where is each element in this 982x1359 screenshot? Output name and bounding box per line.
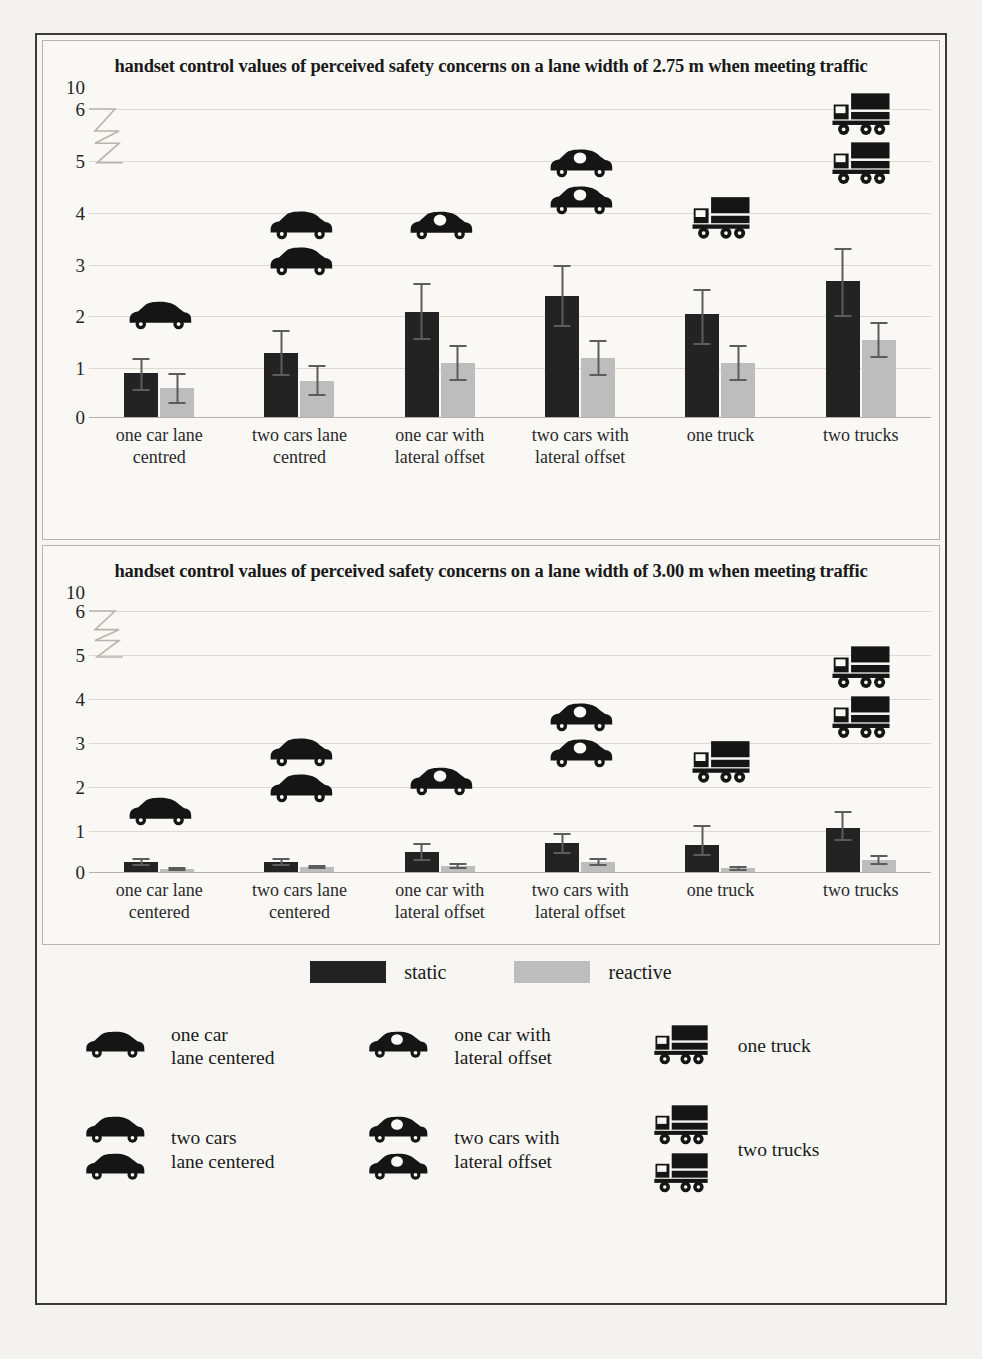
bar-group <box>229 592 369 872</box>
error-bar <box>554 833 571 855</box>
x-tick-label: one truck <box>650 425 790 469</box>
error-bar <box>169 373 186 404</box>
legend-label-static: static <box>404 961 446 984</box>
y-tick-label: 2 <box>76 307 86 326</box>
bar-reactive <box>300 87 334 417</box>
error-bar <box>694 289 711 345</box>
icon-legend-item-one-car-lane-centered: one carlane centered <box>71 1003 354 1089</box>
icon-legend-label: one truck <box>738 1034 811 1057</box>
y-tick-label: 2 <box>76 777 86 796</box>
bar-static <box>545 87 579 417</box>
car-offset-icon <box>354 1114 440 1185</box>
bar-group <box>89 87 229 417</box>
error-bar <box>834 248 851 317</box>
error-bar <box>554 265 571 327</box>
y-tick-label: 3 <box>76 255 86 274</box>
error-bar <box>273 858 290 867</box>
y-tick-label: 6 <box>76 100 86 119</box>
bar-reactive <box>862 592 896 872</box>
error-bar <box>694 825 711 855</box>
bar-group <box>510 592 650 872</box>
error-bar <box>133 358 150 391</box>
y-tick-label: 4 <box>76 203 86 222</box>
bar-reactive <box>441 87 475 417</box>
bar-reactive <box>581 87 615 417</box>
truck-icon <box>638 1103 724 1197</box>
bar-reactive <box>862 87 896 417</box>
error-bar <box>730 345 747 381</box>
error-bar <box>309 865 326 869</box>
bar-static <box>685 87 719 417</box>
bar-static <box>685 592 719 872</box>
gridline <box>89 872 931 873</box>
icon-legend-item-two-cars-with-lateral-offset: two cars withlateral offset <box>354 1103 637 1197</box>
y-tick-label: 1 <box>76 821 86 840</box>
y-tick-label: 3 <box>76 733 86 752</box>
y-tick-label: 5 <box>76 151 86 170</box>
chart-panel-300: handset control values of perceived safe… <box>42 545 940 945</box>
x-tick-label: one car withlateral offset <box>370 880 510 924</box>
x-tick-label: one car lanecentred <box>89 425 229 469</box>
x-tick-label: one car lanecentered <box>89 880 229 924</box>
bar-group <box>650 592 790 872</box>
plot-area-275: 106543210 <box>43 87 939 417</box>
bar-static <box>264 87 298 417</box>
y-tick-label: 6 <box>76 601 86 620</box>
icon-legend-label: two cars withlateral offset <box>454 1126 559 1173</box>
x-tick-label: two trucks <box>791 880 931 924</box>
bar-group <box>650 87 790 417</box>
y-axis-labels-275: 106543210 <box>43 87 89 417</box>
legend-swatch-static <box>310 961 386 983</box>
bar-reactive <box>160 592 194 872</box>
car-offset-icon <box>354 1029 440 1063</box>
icon-legend-label: two carslane centered <box>171 1126 274 1173</box>
bar-group <box>229 87 369 417</box>
y-tick-label: 10 <box>66 582 85 601</box>
error-bar <box>169 867 186 870</box>
x-tick-label: two cars lanecentered <box>229 880 369 924</box>
icon-legend-item-one-car-with-lateral-offset: one car withlateral offset <box>354 1003 637 1089</box>
icon-legend-item-two-trucks: two trucks <box>638 1103 921 1197</box>
bar-series-300 <box>89 592 931 872</box>
icon-legend: one carlane centeredone car withlateral … <box>37 989 945 1197</box>
x-axis-labels-275: one car lanecentredtwo cars lanecentredo… <box>89 425 931 469</box>
icon-legend-label: one car withlateral offset <box>454 1023 552 1070</box>
error-bar <box>870 322 887 358</box>
bar-reactive <box>721 592 755 872</box>
error-bar <box>309 365 326 396</box>
x-tick-label: two cars withlateral offset <box>510 880 650 924</box>
x-tick-label: one car withlateral offset <box>370 425 510 469</box>
bar-series-275 <box>89 87 931 417</box>
figure-frame: handset control values of perceived safe… <box>35 33 947 1305</box>
x-axis-labels-300: one car lanecenteredtwo cars lanecentere… <box>89 880 931 924</box>
car-icon <box>71 1114 157 1185</box>
bar-group <box>370 87 510 417</box>
bar-group <box>510 87 650 417</box>
series-legend: static reactive <box>37 955 945 989</box>
x-tick-label: one truck <box>650 880 790 924</box>
plot-area-300: 106543210 <box>43 592 939 872</box>
bar-static <box>264 592 298 872</box>
gridline <box>89 417 931 418</box>
y-tick-label: 0 <box>76 862 86 881</box>
bar-reactive <box>721 87 755 417</box>
y-tick-label: 1 <box>76 359 86 378</box>
x-tick-label: two cars lanecentred <box>229 425 369 469</box>
bar-group <box>370 592 510 872</box>
bar-static <box>124 87 158 417</box>
bar-static <box>405 87 439 417</box>
chart-title-300: handset control values of perceived safe… <box>43 546 939 584</box>
bar-reactive <box>300 592 334 872</box>
error-bar <box>133 858 150 866</box>
error-bar <box>590 858 607 867</box>
icon-legend-item-one-truck: one truck <box>638 1003 921 1089</box>
bar-static <box>826 87 860 417</box>
error-bar <box>449 863 466 868</box>
legend-label-reactive: reactive <box>608 961 671 984</box>
bar-static <box>124 592 158 872</box>
y-tick-label: 10 <box>66 77 85 96</box>
error-bar <box>590 340 607 376</box>
icon-legend-item-two-cars-lane-centered: two carslane centered <box>71 1103 354 1197</box>
legend-swatch-reactive <box>514 961 590 983</box>
car-icon <box>71 1029 157 1063</box>
